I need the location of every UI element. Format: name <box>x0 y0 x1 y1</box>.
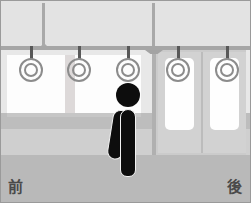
label-front: 前 <box>8 180 23 195</box>
passenger-head <box>116 83 140 107</box>
hanging-strap-2 <box>65 46 93 82</box>
label-rear: 後 <box>227 180 242 195</box>
strap-ring-inner-icon <box>220 63 234 77</box>
ceiling-pole-left <box>42 3 45 49</box>
hanging-strap-3 <box>114 46 142 82</box>
hanging-strap-4 <box>164 46 192 82</box>
door-center-seam <box>201 52 203 153</box>
passenger-body <box>120 109 136 177</box>
hanging-strap-5 <box>213 46 241 82</box>
strap-ring-inner-icon <box>24 63 38 77</box>
train-interior-scene: 前 後 <box>0 0 251 203</box>
strap-ring-inner-icon <box>72 63 86 77</box>
strap-ring-inner-icon <box>121 63 135 77</box>
ceiling-panel <box>1 1 251 47</box>
stanchion-pole <box>152 49 156 155</box>
hanging-strap-1 <box>17 46 45 82</box>
strap-ring-inner-icon <box>171 63 185 77</box>
passenger-figure <box>111 83 145 177</box>
